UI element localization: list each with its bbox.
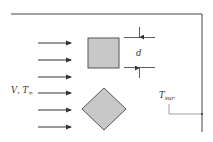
flow-arrows [38, 43, 71, 127]
surroundings-leader-line [169, 104, 202, 114]
surroundings-temperature-label: Tsur [159, 90, 176, 101]
diamond-cylinder [82, 88, 126, 130]
dimension-d: d [124, 27, 155, 78]
leader-endpoint [201, 113, 203, 115]
dimension-label: d [136, 48, 142, 58]
flow-velocity-temperature-label: V, T∞ [11, 85, 33, 96]
square-cylinder [88, 38, 119, 68]
heat-transfer-diagram: V, T∞ d Tsur [0, 0, 213, 142]
